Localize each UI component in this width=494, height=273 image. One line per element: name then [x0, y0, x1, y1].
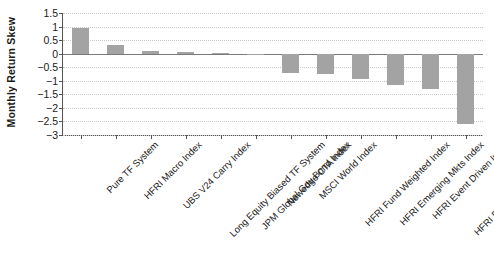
y-tick-label: −1 [46, 75, 58, 87]
bar [422, 54, 438, 89]
plot-area: 1.510.50−0.5−1−1.5−2−2.5−3 [62, 13, 483, 136]
bar [72, 28, 88, 54]
bar [107, 45, 123, 54]
bar [142, 51, 158, 54]
bar [212, 53, 228, 54]
y-tick-label: 1 [52, 21, 58, 33]
y-tick-label: −3 [46, 129, 58, 141]
y-axis-title-text: Monthly Return Skew [5, 17, 17, 128]
chart-container: Monthly Return Skew 1.510.50−0.5−1−1.5−2… [0, 0, 494, 273]
y-tick-label: 0 [52, 48, 58, 60]
y-tick-label: −0.5 [37, 61, 58, 73]
y-tick-label: 1.5 [43, 7, 58, 19]
gridline [63, 135, 483, 136]
y-tick-label: 0.5 [43, 34, 58, 46]
bar [247, 54, 263, 56]
bar [387, 54, 403, 85]
x-axis-labels: Pure TF SystemHFRI Macro IndexUBS V24 Ca… [62, 139, 482, 269]
bar [317, 54, 333, 74]
y-tick-label: −2.5 [37, 115, 58, 127]
bar [282, 54, 298, 74]
bar [457, 54, 473, 124]
bar [352, 54, 368, 80]
y-tick-label: −2 [46, 102, 58, 114]
y-tick-label: −1.5 [37, 88, 58, 100]
bar-series [63, 13, 483, 135]
y-tick-mark [59, 135, 63, 136]
bar [177, 52, 193, 53]
y-axis-title: Monthly Return Skew [0, 0, 22, 145]
